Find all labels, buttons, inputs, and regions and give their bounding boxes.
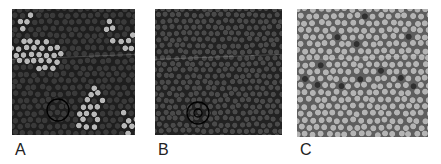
- micrograph-c: [297, 9, 428, 137]
- micrograph-a: [12, 9, 135, 135]
- micrograph-b: [155, 9, 282, 135]
- label-a: A: [15, 142, 26, 158]
- panel-b: [155, 9, 282, 135]
- label-c: C: [300, 142, 312, 158]
- label-b: B: [158, 142, 169, 158]
- panel-c: [297, 9, 428, 137]
- panel-a: [12, 9, 135, 135]
